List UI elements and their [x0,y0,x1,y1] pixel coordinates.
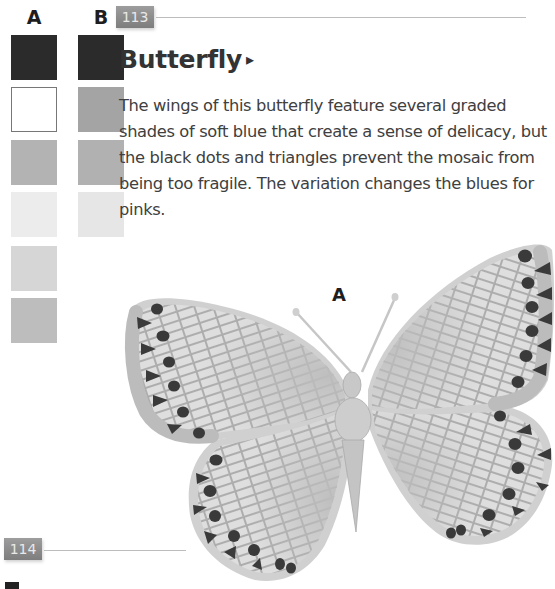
next-entry-number-badge: 114 [4,538,42,560]
next-entry-title-stub [5,582,19,589]
butterfly-mosaic-illustration [0,0,555,589]
artwork-variation-label: A [332,284,346,305]
right-hindwing [368,405,552,545]
next-entry-header-rule [44,550,186,551]
